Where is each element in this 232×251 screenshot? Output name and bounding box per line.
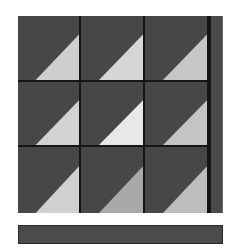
triangle-lower-right-icon: [145, 82, 207, 145]
tile-r2-c1[interactable]: [81, 147, 145, 213]
tile-r2-c0[interactable]: [18, 147, 81, 213]
tile-r1-c2[interactable]: [145, 82, 209, 147]
triangle-lower-right-icon: [81, 147, 143, 213]
triangle-lower-right-icon: [18, 16, 79, 80]
tile-r1-c0[interactable]: [18, 82, 81, 147]
triangle-lower-right-icon: [81, 16, 143, 80]
tile-r1-c1[interactable]: [81, 82, 145, 147]
side-strip: [209, 16, 223, 213]
tile-r0-c0[interactable]: [18, 16, 81, 82]
triangle-lower-right-icon: [145, 16, 207, 80]
triangle-lower-right-icon: [145, 147, 207, 213]
triangle-lower-right-icon: [18, 82, 79, 145]
tile-r2-c2[interactable]: [145, 147, 209, 213]
bottom-bar: [18, 225, 223, 244]
tile-r0-c1[interactable]: [81, 16, 145, 82]
triangle-lower-right-icon: [18, 147, 79, 213]
tile-r0-c2[interactable]: [145, 16, 209, 82]
tile-puzzle-board: [18, 16, 223, 213]
triangle-lower-right-icon: [81, 82, 143, 145]
tile-grid: [18, 16, 209, 213]
